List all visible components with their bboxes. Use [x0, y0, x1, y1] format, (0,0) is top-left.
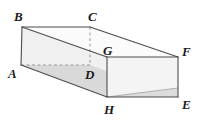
prism-faces	[21, 27, 178, 97]
vertex-label-B: B	[13, 9, 23, 24]
vertex-label-G: G	[103, 43, 113, 58]
vertex-label-C: C	[88, 9, 97, 24]
vertex-label-D: D	[84, 67, 95, 82]
vertex-label-A: A	[7, 66, 17, 81]
rectangular-prism-diagram: B C A D G F H E	[0, 0, 206, 124]
geometry-figure-container: B C A D G F H E	[0, 0, 206, 124]
vertex-label-F: F	[181, 44, 191, 59]
vertex-label-E: E	[181, 97, 191, 112]
vertex-label-H: H	[103, 102, 115, 117]
